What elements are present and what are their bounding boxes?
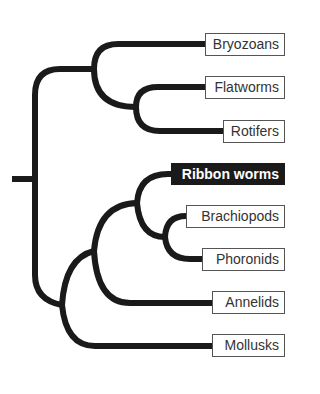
branch-rotifers xyxy=(136,107,223,131)
branch-core xyxy=(62,251,94,305)
branch-ribbon-brach xyxy=(94,203,137,251)
branch-ribbon-worms xyxy=(137,174,171,203)
taxon-label-annelids: Annelids xyxy=(212,291,285,314)
taxon-label-bryozoans: Bryozoans xyxy=(205,33,285,56)
taxon-label-brachiopods: Brachiopods xyxy=(186,205,285,228)
branch-mollusks xyxy=(62,305,212,346)
taxon-label-phoronids: Phoronids xyxy=(202,248,285,271)
branch-lower-clade xyxy=(35,179,62,305)
branch-flatworm-rotifer xyxy=(94,69,136,107)
taxon-label-rotifers: Rotifers xyxy=(223,120,285,143)
taxon-label-ribbon-worms: Ribbon worms xyxy=(171,163,285,185)
taxon-label-flatworms: Flatworms xyxy=(205,76,285,99)
taxon-label-mollusks: Mollusks xyxy=(212,334,285,357)
branch-upper-clade xyxy=(35,69,94,179)
branch-flatworms xyxy=(136,87,205,107)
branch-bryozoans xyxy=(94,44,205,69)
branch-brachiopods xyxy=(165,216,186,237)
branch-brach-phor xyxy=(137,203,165,237)
branch-phoronids xyxy=(165,237,202,259)
